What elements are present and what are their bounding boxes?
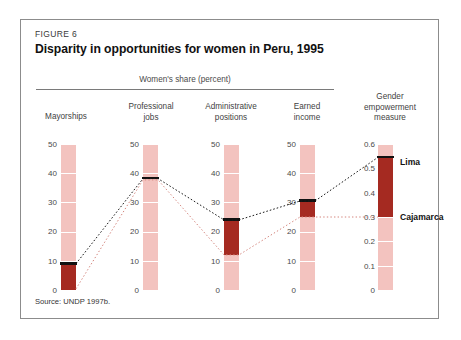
tick-gem-05: 0.5 bbox=[353, 164, 375, 173]
tick-mayorships-20: 20 bbox=[39, 227, 57, 236]
column-header-line: measure bbox=[346, 113, 434, 124]
column-header-administrative-positions: Administrative positions bbox=[184, 102, 278, 123]
lima-marker-gender-empowerment-measure bbox=[377, 156, 394, 158]
column-header-line: Professional bbox=[110, 102, 192, 113]
tick-administrative-30: 30 bbox=[202, 198, 220, 207]
tick-earned-20: 20 bbox=[278, 227, 296, 236]
tick-earned-0: 0 bbox=[278, 286, 296, 295]
series-label-cajamarca: Cajamarca bbox=[400, 212, 443, 222]
value-band-earned-income bbox=[300, 201, 315, 217]
tick-administrative-0: 0 bbox=[202, 286, 220, 295]
tick-mayorships-40: 40 bbox=[39, 169, 57, 178]
figure-frame: FIGURE 6 Disparity in opportunities for … bbox=[20, 19, 439, 319]
axis-track-professional-jobs bbox=[143, 144, 158, 290]
source-text: Source: UNDP 1997b. bbox=[35, 297, 110, 306]
column-header-gender-empowerment-measure: Gender empowerment measure bbox=[346, 92, 434, 124]
tick-administrative-50: 50 bbox=[202, 140, 220, 149]
tick-professional-40: 40 bbox=[121, 169, 139, 178]
value-band-administrative-positions bbox=[224, 220, 239, 255]
tick-gem-04: 0.4 bbox=[353, 189, 375, 198]
column-header-line: income bbox=[268, 113, 346, 124]
column-header-line: empowerment bbox=[346, 103, 434, 114]
tick-administrative-20: 20 bbox=[202, 227, 220, 236]
tick-mayorships-30: 30 bbox=[39, 198, 57, 207]
tick-mayorships-50: 50 bbox=[39, 140, 57, 149]
lima-marker-administrative-positions bbox=[223, 218, 240, 220]
lima-marker-professional-jobs bbox=[142, 177, 159, 179]
tick-administrative-40: 40 bbox=[202, 169, 220, 178]
value-band-mayorships bbox=[61, 264, 76, 290]
tick-earned-50: 50 bbox=[278, 140, 296, 149]
value-band-gender-empowerment-measure bbox=[378, 157, 393, 217]
chart-plot-area: Mayorships 50 40 30 20 10 0 Professional… bbox=[21, 20, 440, 320]
lima-marker-earned-income bbox=[299, 199, 316, 201]
tick-professional-20: 20 bbox=[121, 227, 139, 236]
column-header-line: jobs bbox=[110, 113, 192, 124]
column-header-line: Earned bbox=[268, 102, 346, 113]
tick-professional-10: 10 bbox=[121, 257, 139, 266]
tick-professional-0: 0 bbox=[121, 286, 139, 295]
column-header-line: Administrative bbox=[184, 102, 278, 113]
tick-earned-40: 40 bbox=[278, 169, 296, 178]
column-header-earned-income: Earned income bbox=[268, 102, 346, 123]
lima-marker-mayorships bbox=[60, 262, 77, 264]
column-header-line: positions bbox=[184, 113, 278, 124]
column-header-mayorships: Mayorships bbox=[29, 112, 103, 123]
tick-professional-30: 30 bbox=[121, 198, 139, 207]
axis-track-mayorships bbox=[61, 144, 76, 290]
tick-professional-50: 50 bbox=[121, 140, 139, 149]
tick-gem-02: 0.2 bbox=[353, 237, 375, 246]
tick-gem-06: 0.6 bbox=[353, 140, 375, 149]
tick-mayorships-0: 0 bbox=[39, 286, 57, 295]
tick-administrative-10: 10 bbox=[202, 257, 220, 266]
series-label-lima: Lima bbox=[400, 157, 420, 167]
tick-gem-01: 0.1 bbox=[353, 262, 375, 271]
axis-track-earned-income bbox=[300, 144, 315, 290]
tick-mayorships-10: 10 bbox=[39, 257, 57, 266]
column-header-professional-jobs: Professional jobs bbox=[110, 102, 192, 123]
column-header-line: Gender bbox=[346, 92, 434, 103]
tick-gem-0: 0 bbox=[353, 286, 375, 295]
source-note: Source: UNDP 1997b. bbox=[35, 297, 110, 306]
axis-track-gender-empowerment-measure bbox=[378, 144, 393, 290]
tick-earned-10: 10 bbox=[278, 257, 296, 266]
tick-gem-03: 0.3 bbox=[353, 213, 375, 222]
tick-earned-30: 30 bbox=[278, 198, 296, 207]
axis-track-administrative-positions bbox=[224, 144, 239, 290]
